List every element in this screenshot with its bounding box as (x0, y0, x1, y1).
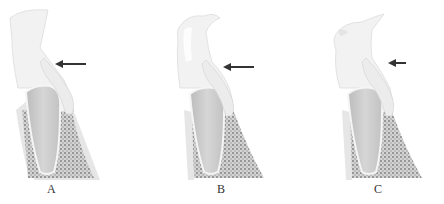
panel-c: C (296, 0, 444, 204)
panel-label-b: B (217, 182, 226, 197)
arrow-icon-a (55, 60, 86, 68)
panel-b: B (148, 0, 296, 204)
tooth-illustration-c (296, 0, 444, 204)
arrow-icon-b (223, 63, 254, 71)
tooth-illustration-a (0, 0, 148, 204)
arrow-icon-c (388, 59, 406, 67)
panel-label-a: A (47, 182, 57, 197)
panel-label-c: C (374, 182, 383, 197)
tooth-illustration-b (148, 0, 296, 204)
panel-a: A (0, 0, 148, 204)
